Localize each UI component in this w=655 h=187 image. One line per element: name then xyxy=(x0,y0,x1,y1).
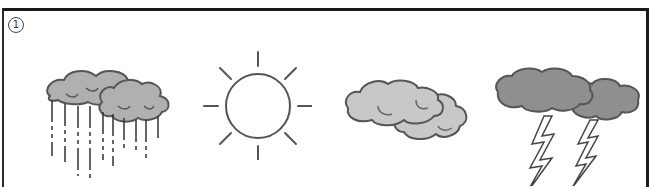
cloud-icon xyxy=(342,70,474,144)
question-number: 1 xyxy=(8,17,24,33)
sun-icon xyxy=(200,48,312,160)
rain-cloud-icon xyxy=(40,66,180,182)
thunderstorm-icon xyxy=(492,66,642,186)
